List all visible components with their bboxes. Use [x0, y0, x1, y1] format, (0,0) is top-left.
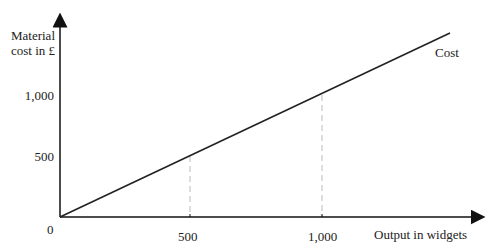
x-tick-label-1000: 1,000 — [308, 229, 337, 244]
y-tick-label-1000: 1,000 — [18, 88, 54, 103]
y-tick-label-500: 500 — [18, 149, 54, 164]
y-label-line1: Material — [7, 28, 55, 43]
series-label-cost: Cost — [435, 45, 459, 60]
y-axis-label: Material cost in £ — [7, 28, 55, 58]
x-axis-label: Output in widgets — [374, 227, 467, 242]
x-tick-label-500: 500 — [178, 229, 198, 244]
cost-line — [60, 33, 450, 217]
chart: Material cost in £ 1,000 500 0 500 1,000… — [0, 0, 492, 246]
origin-label: 0 — [47, 222, 54, 237]
y-label-line2: cost in £ — [7, 43, 55, 58]
chart-plot — [0, 0, 492, 246]
